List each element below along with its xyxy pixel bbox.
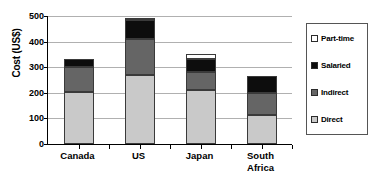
legend-item[interactable]: Direct — [311, 114, 369, 125]
y-axis-tickmark — [44, 67, 48, 68]
x-axis-tick-label: Japan — [165, 150, 235, 162]
x-axis-tickmark — [109, 145, 110, 149]
legend-swatch-icon — [311, 35, 318, 42]
x-axis-tickmark — [231, 145, 232, 149]
x-axis-tick-label-line: Japan — [165, 150, 235, 162]
stacked-bar-chart: Cost (US$) 0100200300400500 CanadaUSJapa… — [0, 0, 373, 187]
bar-segment[interactable] — [247, 93, 277, 114]
legend-item[interactable]: Part-time — [311, 33, 369, 44]
bar-segment[interactable] — [64, 92, 94, 144]
y-axis-tick-label: 200 — [14, 88, 44, 98]
bar-group[interactable] — [186, 16, 216, 144]
legend-label: Part-time — [321, 34, 354, 43]
legend-label: Direct — [321, 115, 342, 124]
bar-group[interactable] — [125, 16, 155, 144]
legend-item[interactable]: Salaried — [311, 60, 369, 71]
y-axis-tick-label: 500 — [14, 11, 44, 21]
x-axis-tick-label-line: South — [226, 150, 296, 162]
x-axis-tick-label: US — [104, 150, 174, 162]
y-axis-tickmark — [44, 42, 48, 43]
x-axis-tick-label-line: US — [104, 150, 174, 162]
x-axis-tick-label-line: Canada — [43, 150, 113, 162]
bar-group[interactable] — [247, 16, 277, 144]
y-axis-tickmark — [44, 118, 48, 119]
bar-segment[interactable] — [125, 75, 155, 144]
x-axis-tickmark — [140, 145, 141, 149]
bar-segment[interactable] — [247, 76, 277, 93]
legend-swatch-icon — [311, 62, 318, 69]
x-axis-tick-label-line: Africa — [226, 162, 296, 174]
y-axis-tickmark — [44, 93, 48, 94]
bar-segment[interactable] — [186, 59, 216, 72]
legend-item[interactable]: Indirect — [311, 87, 369, 98]
bar-segment[interactable] — [125, 18, 155, 20]
legend-swatch-icon — [311, 89, 318, 96]
y-axis-tick-label: 400 — [14, 37, 44, 47]
bar-segment[interactable] — [186, 90, 216, 144]
x-axis-tickmark — [201, 145, 202, 149]
legend-label: Indirect — [321, 88, 348, 97]
plot-area — [47, 16, 292, 145]
y-axis-tick-labels: 0100200300400500 — [14, 10, 44, 148]
bar-segment[interactable] — [186, 54, 216, 59]
y-axis-tick-label: 300 — [14, 62, 44, 72]
bar-segment[interactable] — [125, 39, 155, 75]
y-axis-tickmark — [44, 16, 48, 17]
bar-group[interactable] — [64, 16, 94, 144]
x-axis-tickmark — [292, 145, 293, 149]
bar-segment[interactable] — [64, 67, 94, 91]
x-axis-tickmark — [262, 145, 263, 149]
x-axis-tick-labels: CanadaUSJapanSouthAfrica — [47, 150, 291, 186]
x-axis-tick-label: Canada — [43, 150, 113, 162]
bar-segment[interactable] — [125, 20, 155, 39]
x-axis-tick-label: SouthAfrica — [226, 150, 296, 173]
x-axis-tickmark — [79, 145, 80, 149]
chart-legend: Part-timeSalariedIndirectDirect — [306, 23, 368, 135]
legend-label: Salaried — [321, 61, 351, 70]
x-axis-tickmark — [170, 145, 171, 149]
y-axis-tickmark — [44, 144, 48, 145]
bar-segment[interactable] — [64, 59, 94, 67]
y-axis-tick-label: 0 — [14, 139, 44, 149]
y-axis-tick-label: 100 — [14, 113, 44, 123]
bar-segment[interactable] — [186, 72, 216, 90]
bar-segment[interactable] — [247, 115, 277, 144]
legend-swatch-icon — [311, 116, 318, 123]
